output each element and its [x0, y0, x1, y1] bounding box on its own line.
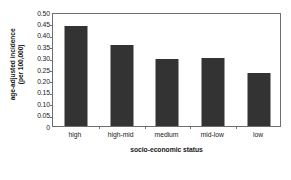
y-axis-tick-mark	[50, 60, 53, 61]
x-axis-tick-mark	[236, 126, 237, 129]
y-axis-tick-label: 0	[26, 124, 50, 131]
bar-slot	[145, 14, 191, 126]
y-axis-tick-mark	[50, 25, 53, 26]
y-axis-tick-label: 0.50	[26, 10, 50, 17]
bars-layer	[53, 14, 280, 126]
x-axis-tick-mark	[190, 126, 191, 129]
x-axis-tick-label: high-mid	[108, 130, 134, 139]
bar	[248, 73, 271, 126]
y-axis-tick-mark	[50, 48, 53, 49]
x-axis-tick-label: low	[253, 130, 263, 139]
y-axis-tick-mark	[50, 71, 53, 72]
y-axis-tick-label: 0.10	[26, 101, 50, 108]
x-axis-title: socio-economic status	[52, 146, 281, 153]
y-axis-tick-mark	[50, 82, 53, 83]
y-axis-tick-labels: 0.500.450.400.350.300.250.200.150.100.05…	[26, 13, 50, 127]
y-axis-tick-mark	[50, 105, 53, 106]
bar-slot	[99, 14, 145, 126]
y-axis-tick-label: 0.30	[26, 55, 50, 62]
bar-slot	[236, 14, 282, 126]
plot-area	[52, 13, 281, 127]
x-axis-tick-mark	[145, 126, 146, 129]
bar-chart-figure: age-adjusted incidence (per 100,000) 0.5…	[0, 0, 291, 180]
y-axis-title-line1: age-adjusted incidence	[9, 28, 16, 100]
bar-slot	[190, 14, 236, 126]
bar-slot	[53, 14, 99, 126]
bar	[64, 26, 87, 126]
y-axis-tick-mark	[50, 37, 53, 38]
bar	[156, 59, 179, 126]
bar	[110, 45, 133, 126]
y-axis-tick-label: 0.35	[26, 44, 50, 51]
plot-inner	[53, 14, 280, 126]
y-axis-tick-label: 0.40	[26, 32, 50, 39]
x-axis-tick-label: medium	[155, 130, 179, 139]
y-axis-tick-label: 0.05	[26, 112, 50, 119]
y-axis-tick-mark	[50, 117, 53, 118]
y-axis-tick-label: 0.15	[26, 89, 50, 96]
y-axis-tick-mark	[50, 94, 53, 95]
y-axis-title: age-adjusted incidence (per 100,000)	[6, 0, 28, 128]
x-axis-tick-mark	[99, 126, 100, 129]
y-axis-tick-label: 0.45	[26, 21, 50, 28]
y-axis-tick-label: 0.20	[26, 78, 50, 85]
x-axis-tick-labels: highhigh-midmediummid-lowlow	[52, 130, 281, 142]
y-axis-title-line2: (per 100,000)	[17, 44, 24, 84]
x-axis-tick-label: high	[69, 130, 82, 139]
bar	[202, 58, 225, 126]
y-axis-tick-label: 0.25	[26, 67, 50, 74]
x-axis-tick-label: mid-low	[201, 130, 224, 139]
